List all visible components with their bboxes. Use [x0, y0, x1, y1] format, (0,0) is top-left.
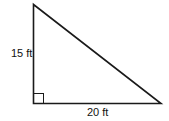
vertical-leg-label: 15 ft: [11, 48, 32, 59]
right-triangle: [34, 5, 162, 104]
horizontal-leg-label: 20 ft: [87, 107, 108, 118]
right-angle-marker: [34, 94, 44, 104]
triangle-figure: [0, 0, 169, 121]
